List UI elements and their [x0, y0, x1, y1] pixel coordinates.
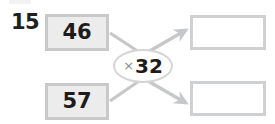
input-box-bottom: 57	[45, 83, 109, 120]
input-value-bottom: 57	[62, 91, 91, 113]
multiply-icon: ×	[123, 59, 134, 73]
worksheet-exercise: 15 46 57 × 32	[0, 0, 275, 124]
connector-output-bottom	[148, 81, 186, 103]
operator-value: 32	[135, 56, 163, 76]
input-box-top: 46	[45, 14, 109, 51]
operator-oval: × 32	[113, 49, 173, 83]
connector-output-top	[148, 30, 186, 52]
connector-input-bottom	[110, 81, 139, 101]
input-value-top: 46	[62, 22, 91, 44]
answer-box-bottom[interactable]	[190, 81, 266, 116]
answer-box-top[interactable]	[190, 15, 266, 50]
